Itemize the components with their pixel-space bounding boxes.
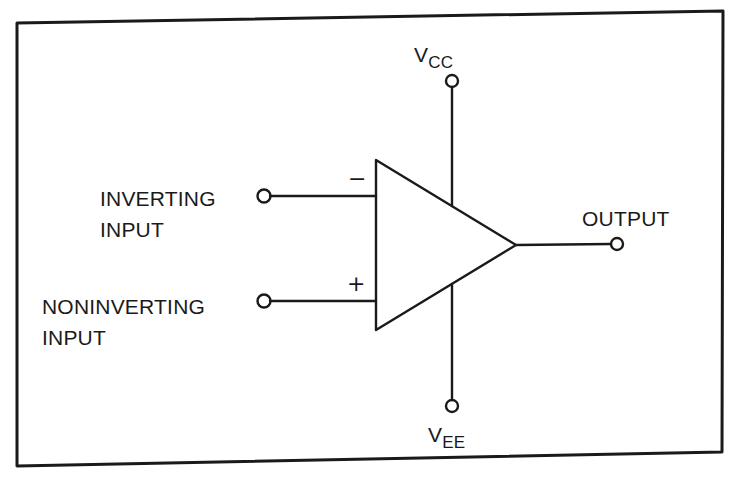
vcc-label-subscript: CC [428,53,453,72]
output-wire [516,244,611,245]
inverting-input-label-line1: INVERTING [100,186,216,211]
noninverting-input-label-line2: INPUT [42,325,205,350]
vee-label-main: V [428,423,442,446]
vcc-label-main: V [414,43,428,66]
vee-label: VEE [428,422,465,449]
inverting-input-label-line2: INPUT [100,217,216,242]
inverting-sign: − [348,168,366,190]
noninverting-input-terminal [258,295,271,308]
noninverting-input-label: NONINVERTING INPUT [42,294,205,350]
vee-label-subscript: EE [442,433,465,452]
output-terminal [611,238,623,250]
noninverting-input-label-line1: NONINVERTING [42,294,205,319]
vcc-terminal [446,75,458,87]
inverting-input-label: INVERTING INPUT [100,186,216,242]
vcc-label: VCC [414,42,453,69]
vee-terminal [446,400,458,412]
inverting-input-terminal [258,190,271,203]
output-label: OUTPUT [582,206,670,231]
op-amp-triangle [376,160,516,330]
output-label-text: OUTPUT [582,207,670,230]
noninverting-sign: + [347,273,365,295]
